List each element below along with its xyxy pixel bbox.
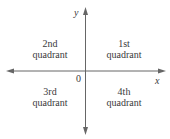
quadrant-4-ordinal: 4th (94, 86, 154, 97)
quadrant-2-label: 2nd quadrant (20, 38, 80, 60)
quadrant-1-ordinal: 1st (94, 38, 154, 49)
quadrant-3-word: quadrant (20, 97, 80, 108)
axes-graphic (0, 0, 170, 139)
origin-label: 0 (76, 73, 81, 84)
quadrant-4-label: 4th quadrant (94, 86, 154, 108)
quadrant-1-word: quadrant (94, 49, 154, 60)
quadrant-1-label: 1st quadrant (94, 38, 154, 60)
quadrant-4-word: quadrant (94, 97, 154, 108)
x-axis-label: x (155, 75, 159, 86)
quadrant-3-ordinal: 3rd (20, 86, 80, 97)
quadrant-2-word: quadrant (20, 49, 80, 60)
quadrant-3-label: 3rd quadrant (20, 86, 80, 108)
x-axis-left-arrow-icon (6, 69, 14, 74)
y-axis-top-arrow-icon (83, 7, 88, 15)
y-axis-bottom-arrow-icon (83, 127, 88, 135)
coordinate-plane-diagram: y x 0 2nd quadrant 1st quadrant 3rd quad… (0, 0, 170, 139)
quadrant-2-ordinal: 2nd (20, 38, 80, 49)
y-axis-label: y (74, 7, 78, 18)
x-axis-right-arrow-icon (158, 69, 166, 74)
